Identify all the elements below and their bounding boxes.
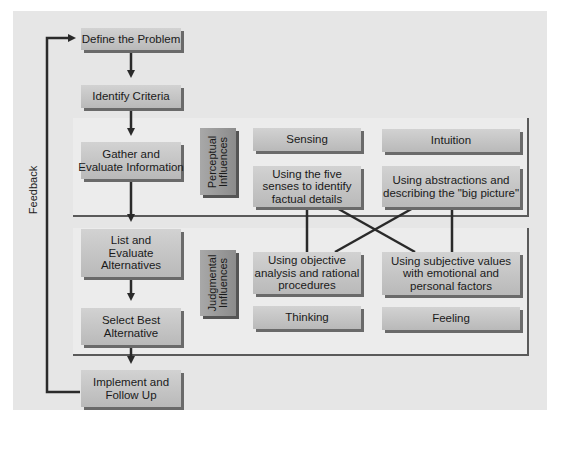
box-label: Using the five senses to identify factua… bbox=[263, 168, 352, 206]
step-label: Identify Criteria bbox=[92, 90, 169, 103]
feeling-description: Using subjective values with emotional a… bbox=[382, 252, 520, 295]
thinking-description: Using objective analysis and rational pr… bbox=[253, 252, 361, 294]
judgmental-influences-label: Judgmental Influences bbox=[200, 250, 236, 316]
box-label: Using objective analysis and rational pr… bbox=[255, 254, 360, 292]
perceptual-influences-label: Perceptual Influences bbox=[200, 128, 236, 195]
step-label: Define the Problem bbox=[82, 33, 180, 46]
intuition-box: Intuition bbox=[382, 129, 520, 152]
step-define-problem: Define the Problem bbox=[81, 28, 181, 50]
feeling-box: Feeling bbox=[382, 307, 520, 330]
step-select-alternative: Select Best Alternative bbox=[81, 308, 181, 345]
step-implement-follow-up: Implement and Follow Up bbox=[81, 370, 181, 407]
box-label: Using abstractions and describing the "b… bbox=[383, 174, 519, 199]
box-label: Sensing bbox=[286, 133, 328, 146]
feedback-label: Feedback bbox=[27, 166, 39, 214]
box-label: Intuition bbox=[431, 134, 471, 147]
step-identify-criteria: Identify Criteria bbox=[81, 85, 181, 108]
thinking-box: Thinking bbox=[253, 306, 361, 329]
sensing-box: Sensing bbox=[253, 128, 361, 151]
step-list-alternatives: List and Evaluate Alternatives bbox=[81, 229, 181, 277]
sensing-description: Using the five senses to identify factua… bbox=[253, 166, 361, 207]
step-label: Select Best Alternative bbox=[102, 314, 160, 339]
step-label: List and Evaluate Alternatives bbox=[101, 234, 161, 272]
box-label: Feeling bbox=[432, 312, 470, 325]
box-label: Thinking bbox=[285, 311, 328, 324]
group-label: Perceptual Influences bbox=[207, 135, 229, 188]
group-label: Judgmental Influences bbox=[207, 255, 229, 312]
intuition-description: Using abstractions and describing the "b… bbox=[382, 166, 520, 207]
box-label: Using subjective values with emotional a… bbox=[391, 255, 511, 293]
step-label: Implement and Follow Up bbox=[93, 376, 169, 401]
step-gather-information: Gather and Evaluate Information bbox=[81, 142, 181, 179]
step-label: Gather and Evaluate Information bbox=[78, 148, 183, 173]
